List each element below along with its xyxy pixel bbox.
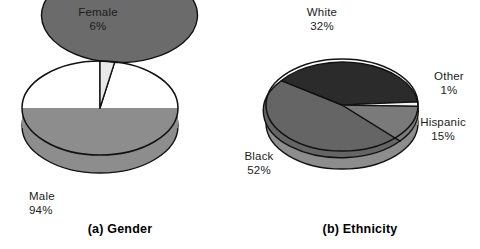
label-black-value: 52% bbox=[228, 164, 290, 178]
label-hispanic-name: Hispanic bbox=[406, 116, 480, 130]
pie-chart-figure: Female 6% Male 94% (a) Gender bbox=[0, 0, 480, 249]
label-white-value: 32% bbox=[286, 20, 358, 34]
label-female-value: 6% bbox=[62, 20, 134, 34]
caption-gender: (a) Gender bbox=[0, 222, 240, 236]
label-female: Female 6% bbox=[62, 6, 134, 33]
ethnicity-pie-top-face bbox=[263, 59, 418, 158]
label-male-name: Male bbox=[29, 190, 99, 204]
label-white: White 32% bbox=[286, 6, 358, 33]
label-male-value: 94% bbox=[29, 204, 99, 218]
label-other-value: 1% bbox=[422, 84, 476, 98]
chart-panel-ethnicity: White 32% Other 1% Hispanic 15% Black 52… bbox=[240, 0, 480, 249]
gender-slice-female bbox=[100, 61, 115, 108]
chart-panel-gender: Female 6% Male 94% (a) Gender bbox=[0, 0, 240, 249]
label-other-name: Other bbox=[422, 70, 476, 84]
label-female-name: Female bbox=[62, 6, 134, 20]
label-male: Male 94% bbox=[29, 190, 99, 217]
label-hispanic-value: 15% bbox=[406, 130, 480, 144]
label-other: Other 1% bbox=[422, 70, 476, 97]
label-hispanic: Hispanic 15% bbox=[406, 116, 480, 143]
label-white-name: White bbox=[286, 6, 358, 20]
caption-ethnicity: (b) Ethnicity bbox=[240, 222, 480, 236]
label-black-name: Black bbox=[228, 150, 290, 164]
label-black: Black 52% bbox=[228, 150, 290, 177]
